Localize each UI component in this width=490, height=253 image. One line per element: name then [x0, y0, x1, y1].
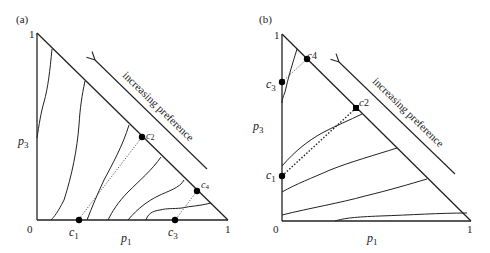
- probability-triangle-diagrams: (a) c1 c2 c3 c4 1 0 1 p3 p1: [0, 0, 490, 253]
- point-c1: [76, 217, 82, 223]
- label-c4: c4: [307, 49, 317, 61]
- point-c3: [172, 217, 178, 223]
- point-c3: [279, 79, 285, 85]
- x-axis-label: p1: [366, 231, 378, 247]
- point-c2: [139, 134, 145, 140]
- origin-label: 0: [273, 223, 279, 235]
- x-axis-label: p1: [120, 231, 132, 247]
- y-axis-label: p3: [252, 119, 264, 135]
- label-c1: c1: [69, 225, 79, 241]
- x-max-label: 1: [225, 223, 231, 235]
- arrow-text: increasing preference: [371, 75, 447, 150]
- label-c2: c2: [359, 96, 369, 108]
- y-max-label: 1: [29, 28, 35, 40]
- panel-a-label: (a): [16, 13, 29, 26]
- c3-c4-connector: [176, 191, 197, 219]
- preference-arrow: [95, 60, 207, 169]
- panel-b-label: (b): [259, 13, 272, 26]
- y-max-label: 1: [274, 29, 280, 41]
- panel-b: (b) c1 c2 c3 c4 1 0 1 p3 p1: [252, 13, 473, 247]
- label-c3: c3: [266, 77, 276, 93]
- y-axis-label: p3: [17, 134, 29, 150]
- point-c1: [279, 173, 285, 179]
- c1-c2-connector: [79, 137, 142, 219]
- x-max-label: 1: [467, 223, 473, 235]
- arrow-text: increasing preference: [121, 69, 197, 144]
- preference-arrow: [339, 62, 455, 174]
- point-c4: [194, 188, 200, 194]
- label-c2: c2: [146, 130, 154, 142]
- panel-a: (a) c1 c2 c3 c4 1 0 1 p3 p1: [16, 13, 231, 247]
- label-c3: c3: [168, 225, 178, 241]
- label-c4: c4: [201, 179, 209, 191]
- label-c1: c1: [266, 168, 276, 184]
- c3-c4-connector: [282, 59, 307, 82]
- c1-c2-connector: [282, 108, 356, 176]
- origin-label: 0: [27, 223, 33, 235]
